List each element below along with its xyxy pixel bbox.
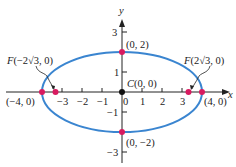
- left-focus-point: [53, 89, 59, 95]
- x-tick-label: −2: [77, 96, 88, 107]
- x-axis-label: x: [227, 89, 233, 100]
- center-point: [119, 89, 125, 95]
- y-axis-label: y: [118, 5, 124, 16]
- left-focus-leader: [36, 66, 53, 89]
- x-tick-label: 0: [123, 96, 128, 107]
- left-vertex-label: (−4, 0): [6, 96, 35, 108]
- left-vertex-point: [39, 89, 45, 95]
- x-tick-label: 1: [140, 96, 145, 107]
- y-tick-label: −3: [107, 147, 118, 158]
- bottom-vertex-point: [119, 129, 125, 135]
- top-vertex-label: (0, 2): [126, 39, 149, 51]
- left-focus-label: F(−2√3, 0): [6, 55, 54, 67]
- center-label-coords: (0, 0): [134, 78, 157, 90]
- left-focus-coords: (−2√3, 0): [13, 55, 53, 67]
- right-focus-coords: (2√3, 0): [190, 55, 224, 67]
- x-tick-label: 2: [160, 96, 165, 107]
- y-tick-label: 1: [114, 67, 119, 78]
- y-tick-label: 3: [112, 27, 117, 38]
- y-tick-label: −1: [107, 107, 118, 118]
- right-vertex-point: [199, 89, 205, 95]
- top-vertex-point: [119, 49, 125, 55]
- center-label: C(0, 0): [127, 78, 157, 90]
- x-tick-label: 3: [180, 96, 185, 107]
- ellipse-diagram: y x −3 −2 −1 0 1 2 3 3 1 −1 −3 (0, 2) (0…: [0, 0, 236, 167]
- right-focus-label: F(2√3, 0): [183, 55, 225, 67]
- x-tick-label: −3: [57, 96, 68, 107]
- right-focus-point: [186, 89, 192, 95]
- bottom-vertex-label: (0, −2): [126, 137, 155, 149]
- y-axis-arrow-icon: [119, 19, 125, 27]
- x-tick-label: −1: [97, 96, 108, 107]
- right-vertex-label: (4, 0): [204, 96, 227, 108]
